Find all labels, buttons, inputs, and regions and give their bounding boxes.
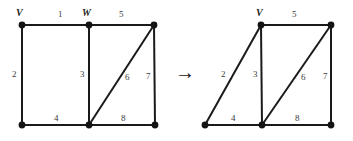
left-edge-label-5: 5 xyxy=(119,10,124,19)
left-edge-label-3: 3 xyxy=(80,70,85,79)
right-edge-label-5: 5 xyxy=(292,10,297,19)
right-edge-label-8: 8 xyxy=(295,114,300,123)
left-edge-label-7: 7 xyxy=(146,72,151,81)
left-vertex-bl xyxy=(19,122,26,129)
right-vertex-label-v: V xyxy=(256,8,263,18)
left-edge-label-4: 4 xyxy=(54,114,59,123)
left-vertex-w xyxy=(86,22,93,29)
edge-contraction-figure: 15237648VW 5237648V → xyxy=(0,0,353,141)
right-vertex-vw xyxy=(258,22,265,29)
right-edge-label-7: 7 xyxy=(323,72,328,81)
rightwards-arrow-icon: → xyxy=(175,62,195,82)
right-edge-label-2: 2 xyxy=(221,70,226,79)
right-vertex-tr xyxy=(328,22,335,29)
right-edge-6 xyxy=(262,25,331,125)
left-vertex-label-v: V xyxy=(16,8,23,18)
left-vertex-v xyxy=(19,22,26,29)
right-edge-label-3: 3 xyxy=(253,70,258,79)
right-edge-3 xyxy=(261,25,262,125)
left-edge-6 xyxy=(89,25,154,125)
left-edge-7 xyxy=(154,25,155,125)
right-vertex-bl xyxy=(202,122,209,129)
left-vertex-bm xyxy=(86,122,93,129)
left-edge-label-6: 6 xyxy=(125,73,130,82)
left-vertex-tr xyxy=(151,22,158,29)
right-edge-label-6: 6 xyxy=(301,73,306,82)
left-vertex-label-w: W xyxy=(82,8,91,18)
left-edge-label-1: 1 xyxy=(58,10,63,19)
left-graph-edges xyxy=(22,25,155,125)
right-vertex-br xyxy=(328,122,335,129)
right-edge-label-4: 4 xyxy=(231,114,236,123)
left-vertex-br xyxy=(152,122,159,129)
right-vertex-bm xyxy=(259,122,266,129)
left-edge-label-2: 2 xyxy=(12,70,17,79)
left-edge-label-8: 8 xyxy=(121,114,126,123)
